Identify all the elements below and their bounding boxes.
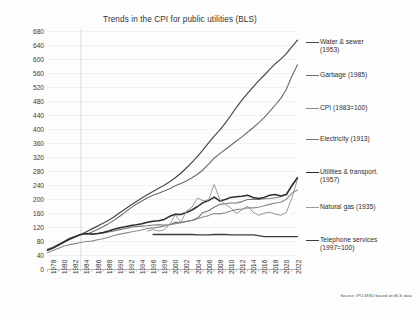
legend-label: Telephone services (1997=100): [320, 236, 420, 251]
legend-label: CPI (1983=100): [320, 104, 420, 112]
chart-container: Trends in the CPI for public utilities (…: [0, 0, 420, 317]
source-note: Source: IPU-MSU based on BLS data: [340, 293, 412, 298]
legend-color-swatch: [306, 240, 319, 241]
legend-label: Electricity (1913): [320, 135, 420, 143]
chart-legend: Water & sewer (1953)Garbage (1985)CPI (1…: [0, 0, 420, 317]
legend-label: Natural gas (1935): [320, 203, 420, 211]
legend-color-swatch: [306, 75, 319, 76]
legend-label: Water & sewer (1953): [320, 38, 420, 53]
legend-color-swatch: [306, 207, 319, 208]
legend-color-swatch: [306, 172, 319, 173]
legend-label: Utilities & transport. (1957): [320, 168, 420, 183]
legend-color-swatch: [306, 139, 319, 140]
legend-label: Garbage (1985): [320, 71, 420, 79]
legend-color-swatch: [306, 108, 319, 109]
legend-color-swatch: [306, 42, 319, 43]
